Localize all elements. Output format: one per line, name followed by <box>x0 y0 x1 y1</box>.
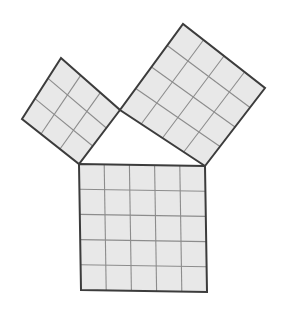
pythagoras-diagram <box>0 0 284 315</box>
pythagoras-svg-canvas <box>0 0 284 315</box>
square-c <box>79 164 207 292</box>
square-c-fill <box>79 164 207 292</box>
